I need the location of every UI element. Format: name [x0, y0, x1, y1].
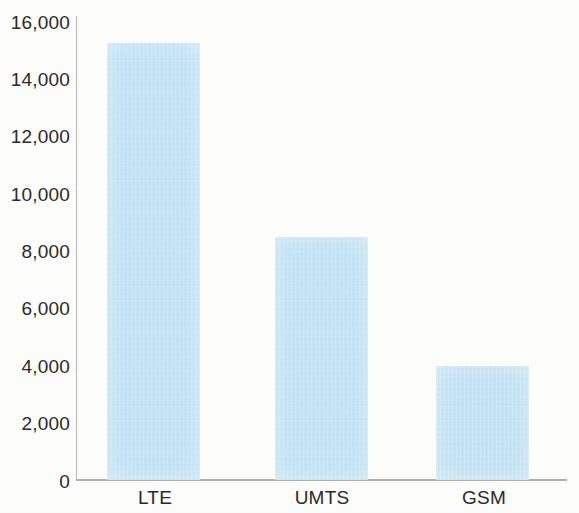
bar-umts	[275, 237, 368, 480]
x-tick-label-gsm: GSM	[462, 488, 506, 507]
bar-gsm	[436, 366, 529, 481]
bars-layer	[0, 0, 579, 513]
x-tick-label-umts: UMTS	[295, 488, 350, 507]
bar-lte	[107, 43, 200, 480]
bar-chart: 16,000 14,000 12,000 10,000 8,000 6,000 …	[0, 0, 579, 513]
x-tick-label-lte: LTE	[138, 488, 172, 507]
